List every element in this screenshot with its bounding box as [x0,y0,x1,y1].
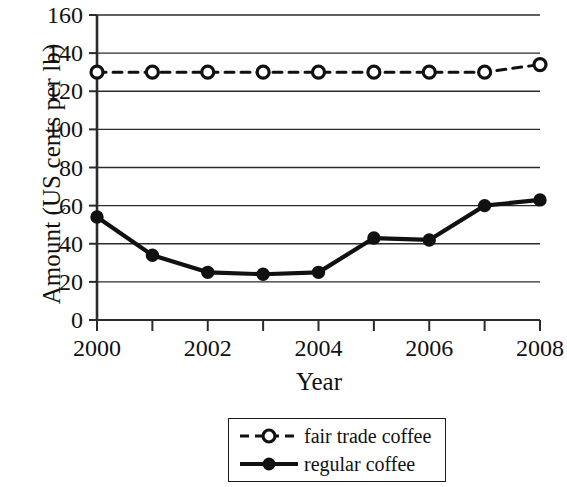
legend: fair trade coffee regular coffee [228,418,446,482]
plot-area [0,0,567,487]
data-point [424,234,435,245]
x-axis-tick-label: 2002 [168,336,248,360]
data-point [479,66,491,78]
line-chart: Amount (US cents per lb) 020406080100120… [0,0,567,487]
legend-label: regular coffee [304,453,415,476]
x-axis-tick-label: 2000 [57,336,137,360]
data-point [258,269,269,280]
x-axis-tick-label: 2006 [389,336,469,360]
data-point [534,194,545,205]
data-point [202,66,214,78]
data-point [368,66,380,78]
x-axis-title: Year [97,368,541,396]
data-point [313,267,324,278]
x-axis-tick-label: 2004 [279,336,359,360]
legend-item-fair-trade-coffee: fair trade coffee [238,423,431,449]
data-point [257,66,269,78]
data-point [147,250,158,261]
data-point [91,66,103,78]
data-point [423,66,435,78]
legend-swatch-solid-filled-circle [238,453,300,475]
series-line-regular-coffee [97,200,540,274]
data-point [146,66,158,78]
data-point [368,232,379,243]
data-point [202,267,213,278]
legend-swatch-dashed-open-circle [238,425,300,447]
legend-label: fair trade coffee [304,425,431,448]
legend-item-regular-coffee: regular coffee [238,451,415,477]
data-point [313,66,325,78]
data-point [479,200,490,211]
data-point [91,211,102,222]
data-point [534,59,546,71]
x-axis-tick-label: 2008 [500,336,567,360]
